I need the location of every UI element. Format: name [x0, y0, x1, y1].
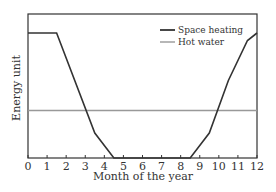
- x-tick-label: 10: [212, 160, 226, 173]
- y-axis-label: Energy unit: [10, 55, 23, 121]
- legend-label-space-heating: Space heating: [178, 25, 243, 35]
- legend: Space heating Hot water: [160, 25, 243, 47]
- x-tick-label: 1: [44, 160, 51, 173]
- x-tick-label: 3: [82, 160, 89, 173]
- chart: 0123456789101112 Space heating Hot water…: [0, 0, 276, 192]
- legend-label-hot-water: Hot water: [178, 37, 225, 47]
- x-axis-label: Month of the year: [93, 170, 194, 183]
- x-tick-label: 2: [63, 160, 70, 173]
- space-heating-line: [28, 33, 257, 158]
- x-tick-label: 11: [231, 160, 245, 173]
- x-tick-label: 0: [25, 160, 32, 173]
- x-tick-label: 9: [196, 160, 203, 173]
- x-tick-label: 12: [250, 160, 264, 173]
- plot-frame: [28, 14, 257, 158]
